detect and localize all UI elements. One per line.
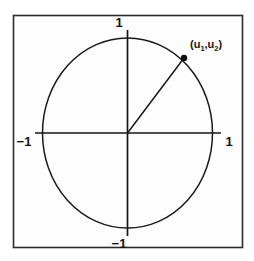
tick-label-right: 1	[225, 134, 232, 149]
figure-container: (u1,u2) 1 1 −1 −1	[0, 0, 254, 261]
unit-vector-point	[181, 55, 187, 61]
tick-label-top: 1	[115, 15, 122, 30]
unit-circle-figure: (u1,u2) 1 1 −1 −1	[0, 0, 254, 261]
tick-label-left: −1	[17, 134, 32, 149]
tick-label-bottom: −1	[112, 236, 127, 251]
